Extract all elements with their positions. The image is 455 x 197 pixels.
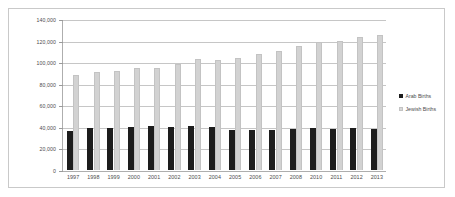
- bar-arab-births[interactable]: [249, 130, 255, 170]
- x-axis-label: 1999: [104, 174, 124, 180]
- bar-arab-births[interactable]: [330, 129, 336, 170]
- bar-jewish-births[interactable]: [256, 54, 262, 170]
- y-axis-tick: [59, 171, 63, 172]
- chart-container: 020,00040,00060,00080,000100,000120,0001…: [8, 8, 445, 188]
- bar-jewish-births[interactable]: [316, 42, 322, 170]
- bar-jewish-births[interactable]: [94, 72, 100, 170]
- bar-group: 1998: [83, 19, 103, 170]
- y-axis-label: 60,000: [40, 103, 56, 109]
- x-axis-label: 2012: [347, 174, 367, 180]
- bar-group: 2003: [185, 19, 205, 170]
- x-axis-label: 2013: [367, 174, 387, 180]
- bar-group: 2006: [245, 19, 265, 170]
- bar-jewish-births[interactable]: [134, 68, 140, 170]
- bar-arab-births[interactable]: [209, 127, 215, 170]
- bar-arab-births[interactable]: [310, 128, 316, 170]
- bar-jewish-births[interactable]: [175, 64, 181, 170]
- y-axis-label: 120,000: [37, 39, 56, 45]
- bar-jewish-births[interactable]: [215, 60, 221, 170]
- legend-item[interactable]: Jewish Births: [399, 106, 436, 112]
- bar-arab-births[interactable]: [168, 127, 174, 170]
- legend-item-label: Arab Births: [406, 93, 432, 99]
- bar-group: 2011: [326, 19, 346, 170]
- legend-swatch-icon: [399, 107, 403, 111]
- bar-arab-births[interactable]: [350, 128, 356, 170]
- x-axis-label: 2002: [164, 174, 184, 180]
- bar-jewish-births[interactable]: [296, 46, 302, 170]
- y-axis-label: 40,000: [40, 125, 56, 131]
- bar-group: 2008: [286, 19, 306, 170]
- bar-arab-births[interactable]: [229, 130, 235, 170]
- legend-swatch-icon: [399, 94, 403, 98]
- legend-item[interactable]: Arab Births: [399, 93, 436, 99]
- bar-group: 2012: [347, 19, 367, 170]
- bar-group: 2010: [306, 19, 326, 170]
- legend-item-label: Jewish Births: [406, 106, 437, 112]
- x-axis-label: 2000: [124, 174, 144, 180]
- bar-group: 1997: [63, 19, 83, 170]
- bar-arab-births[interactable]: [67, 131, 73, 170]
- bar-jewish-births[interactable]: [276, 51, 282, 170]
- bar-jewish-births[interactable]: [114, 71, 120, 170]
- bar-group: 2000: [124, 19, 144, 170]
- y-axis-label: 140,000: [37, 17, 56, 23]
- x-axis-label: 2006: [245, 174, 265, 180]
- bar-group: 2001: [144, 19, 164, 170]
- bar-jewish-births[interactable]: [195, 59, 201, 170]
- bar-arab-births[interactable]: [188, 126, 194, 170]
- bar-arab-births[interactable]: [371, 129, 377, 170]
- x-axis-label: 2011: [326, 174, 346, 180]
- y-axis-label: 100,000: [37, 60, 56, 66]
- bar-group: 2004: [205, 19, 225, 170]
- x-axis-label: 2005: [225, 174, 245, 180]
- bar-arab-births[interactable]: [107, 128, 113, 170]
- bar-group: 2013: [367, 19, 387, 170]
- bar-jewish-births[interactable]: [357, 37, 363, 170]
- chart-legend: Arab BirthsJewish Births: [399, 93, 436, 119]
- x-axis-label: 1997: [63, 174, 83, 180]
- y-axis-label: 80,000: [40, 82, 56, 88]
- bar-jewish-births[interactable]: [377, 35, 383, 170]
- bar-group: 2005: [225, 19, 245, 170]
- bar-jewish-births[interactable]: [73, 75, 79, 170]
- x-axis-label: 2003: [185, 174, 205, 180]
- bar-jewish-births[interactable]: [337, 41, 343, 170]
- x-axis-label: 1998: [83, 174, 103, 180]
- bar-jewish-births[interactable]: [235, 58, 241, 170]
- bar-arab-births[interactable]: [148, 126, 154, 170]
- x-axis-label: 2001: [144, 174, 164, 180]
- bar-arab-births[interactable]: [87, 128, 93, 170]
- y-axis-label: 20,000: [40, 146, 56, 152]
- x-axis-label: 2004: [205, 174, 225, 180]
- bar-group: 1999: [104, 19, 124, 170]
- bar-group: 2002: [164, 19, 184, 170]
- bar-group: 2007: [266, 19, 286, 170]
- bar-arab-births[interactable]: [269, 130, 275, 170]
- bar-arab-births[interactable]: [128, 127, 134, 170]
- x-axis-label: 2010: [306, 174, 326, 180]
- plot-area: 020,00040,00060,00080,000100,000120,0001…: [62, 20, 386, 172]
- x-axis-label: 2007: [266, 174, 286, 180]
- bar-arab-births[interactable]: [290, 129, 296, 170]
- x-axis-label: 2008: [286, 174, 306, 180]
- y-axis-label: 0: [53, 168, 56, 174]
- bar-jewish-births[interactable]: [154, 68, 160, 170]
